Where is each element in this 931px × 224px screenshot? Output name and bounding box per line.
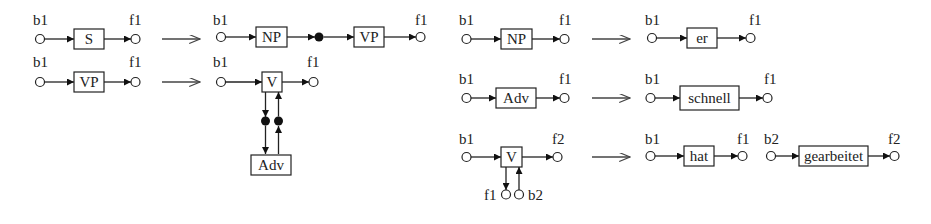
label-b1: b1 bbox=[33, 54, 48, 70]
label-b1: b1 bbox=[459, 71, 474, 87]
box-vp-label: VP bbox=[359, 29, 378, 45]
label-b1: b1 bbox=[645, 71, 660, 87]
box-np-label: NP bbox=[507, 31, 526, 47]
label-f1: f1 bbox=[737, 131, 750, 147]
box-v-label: V bbox=[267, 74, 278, 90]
box-hat-label: hat bbox=[690, 148, 709, 164]
label-f1: f1 bbox=[749, 12, 762, 28]
final-node bbox=[560, 94, 569, 103]
final-node bbox=[746, 34, 755, 43]
begin-node bbox=[462, 35, 471, 44]
label-f1: f1 bbox=[484, 187, 497, 203]
begin-node bbox=[767, 152, 776, 161]
rule-np-rhs: b1 f1 er bbox=[645, 12, 762, 48]
label-b1: b1 bbox=[459, 131, 474, 147]
label-b1: b1 bbox=[645, 12, 660, 28]
box-er-label: er bbox=[696, 30, 708, 46]
label-f1: f1 bbox=[559, 71, 572, 87]
label-f2: f2 bbox=[888, 131, 901, 147]
filled-node bbox=[315, 33, 324, 42]
label-f2: f2 bbox=[552, 131, 565, 147]
begin-node bbox=[217, 33, 226, 42]
label-f1: f1 bbox=[559, 12, 572, 28]
rule-np-lhs: b1 f1 NP bbox=[459, 12, 572, 49]
box-s-label: S bbox=[85, 31, 93, 47]
begin-node bbox=[36, 35, 45, 44]
box-np-label: NP bbox=[262, 29, 281, 45]
begin-node bbox=[462, 94, 471, 103]
begin-node bbox=[36, 78, 45, 87]
label-b2: b2 bbox=[528, 187, 543, 203]
label-f1: f1 bbox=[129, 12, 142, 28]
final-node bbox=[131, 78, 140, 87]
label-f1: f1 bbox=[307, 54, 320, 70]
rule-v-rhs: b1 f1 hat b2 f2 gearbeitet bbox=[645, 131, 901, 166]
begin-node bbox=[648, 34, 657, 43]
final-node-f1 bbox=[502, 190, 511, 199]
box-gearbeitet-label: gearbeitet bbox=[804, 148, 864, 164]
final-node bbox=[553, 153, 562, 162]
rewrite-rules-diagram: b1 f1 S b1 f1 NP VP b1 f1 VP b1 f bbox=[0, 0, 931, 224]
filled-node bbox=[261, 117, 270, 126]
rule-v-lhs: b1 f2 V f1 b2 bbox=[459, 131, 565, 203]
filled-node bbox=[274, 117, 283, 126]
begin-node bbox=[646, 94, 655, 103]
label-f1: f1 bbox=[764, 71, 777, 87]
final-node bbox=[560, 35, 569, 44]
rule-adv-rhs: b1 f1 schnell bbox=[645, 71, 777, 110]
label-b1: b1 bbox=[459, 12, 474, 28]
begin-node bbox=[462, 153, 471, 162]
label-f1: f1 bbox=[129, 54, 142, 70]
label-f1: f1 bbox=[415, 12, 428, 28]
rule-s-lhs: b1 f1 S bbox=[33, 12, 142, 49]
final-node bbox=[738, 152, 747, 161]
final-node bbox=[309, 78, 318, 87]
box-vp-label: VP bbox=[79, 74, 98, 90]
rule-s-rhs: b1 f1 NP VP bbox=[213, 12, 428, 47]
rule-vp-lhs: b1 f1 VP bbox=[33, 54, 142, 92]
begin-node bbox=[646, 152, 655, 161]
box-adv-label: Adv bbox=[503, 90, 529, 106]
label-b1: b1 bbox=[213, 12, 228, 28]
final-node bbox=[890, 152, 899, 161]
begin-node-b2 bbox=[515, 190, 524, 199]
label-b2: b2 bbox=[764, 131, 779, 147]
box-adv-label: Adv bbox=[258, 157, 284, 173]
box-v-label: V bbox=[506, 149, 517, 165]
final-node bbox=[763, 94, 772, 103]
box-schnell-label: schnell bbox=[688, 90, 731, 106]
final-node bbox=[131, 35, 140, 44]
label-b1: b1 bbox=[645, 131, 660, 147]
label-b1: b1 bbox=[213, 54, 228, 70]
final-node bbox=[416, 33, 425, 42]
label-b1: b1 bbox=[33, 12, 48, 28]
rule-adv-lhs: b1 f1 Adv bbox=[459, 71, 572, 108]
begin-node bbox=[217, 78, 226, 87]
rule-vp-rhs: b1 f1 V Adv bbox=[213, 54, 320, 175]
